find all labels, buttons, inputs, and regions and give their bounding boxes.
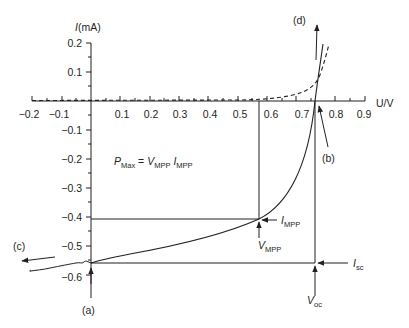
label-a: (a) bbox=[82, 304, 95, 316]
y-tick-label: −0.3 bbox=[61, 182, 82, 194]
x-tick-label: 0.8 bbox=[329, 108, 344, 120]
arrow-d bbox=[316, 25, 317, 60]
x-tick-label: 0.1 bbox=[115, 108, 130, 120]
x-axis: −0.2 −0.1 0.1 0.2 0.3 0.4 0.5 0.6 0.7 0.… bbox=[19, 96, 394, 120]
x-tick-label: −0.2 bbox=[19, 108, 40, 120]
arrow-c bbox=[22, 257, 55, 261]
label-d: (d) bbox=[293, 14, 306, 26]
x-tick-label: 0.9 bbox=[357, 108, 372, 120]
x-tick-label: 0.5 bbox=[233, 108, 248, 120]
iv-curve-diagram: 0.2 0.1 −0.1 −0.2 −0.3 −0.4 −0.5 −0.6 I(… bbox=[0, 0, 409, 328]
x-axis-title: U/V bbox=[376, 97, 394, 109]
x-tick-labels: −0.2 −0.1 0.1 0.2 0.3 0.4 0.5 0.6 0.7 0.… bbox=[19, 108, 372, 120]
y-axis-title: I(mA) bbox=[75, 21, 101, 33]
label-impp: IMPP bbox=[281, 214, 300, 229]
label-b: (b) bbox=[322, 152, 335, 164]
x-tick-label: 0.4 bbox=[203, 108, 218, 120]
y-tick-label: −0.2 bbox=[61, 153, 82, 165]
x-tick-label: −0.1 bbox=[49, 108, 70, 120]
x-tick-label: 0.6 bbox=[264, 108, 279, 120]
y-tick-label: 0.1 bbox=[67, 66, 82, 78]
reverse-bias-wavy bbox=[30, 261, 91, 271]
x-tick-label: 0.7 bbox=[295, 108, 310, 120]
y-tick-label: 0.2 bbox=[67, 37, 82, 49]
y-axis-major-ticks bbox=[86, 43, 91, 275]
y-tick-labels: 0.2 0.1 −0.1 −0.2 −0.3 −0.4 −0.5 −0.6 bbox=[61, 37, 82, 283]
label-isc: Isc bbox=[353, 257, 364, 272]
x-tick-label: 0.2 bbox=[144, 108, 159, 120]
x-tick-label: 0.3 bbox=[173, 108, 188, 120]
label-c: (c) bbox=[13, 240, 25, 252]
illuminated-curve bbox=[91, 44, 323, 263]
y-tick-label: −0.4 bbox=[61, 211, 82, 223]
y-tick-label: −0.1 bbox=[61, 124, 82, 136]
arrow-b bbox=[319, 106, 328, 147]
label-voc: Voc bbox=[307, 294, 322, 309]
diagram-canvas: 0.2 0.1 −0.1 −0.2 −0.3 −0.4 −0.5 −0.6 I(… bbox=[0, 0, 409, 328]
pmax-formula: PMax = VMPPIMPP bbox=[114, 155, 193, 170]
y-tick-label: −0.5 bbox=[61, 240, 82, 252]
y-tick-label: −0.6 bbox=[61, 271, 82, 283]
label-vmpp: VMPP bbox=[258, 239, 281, 254]
y-axis: 0.2 0.1 −0.1 −0.2 −0.3 −0.4 −0.5 −0.6 I(… bbox=[61, 21, 100, 284]
